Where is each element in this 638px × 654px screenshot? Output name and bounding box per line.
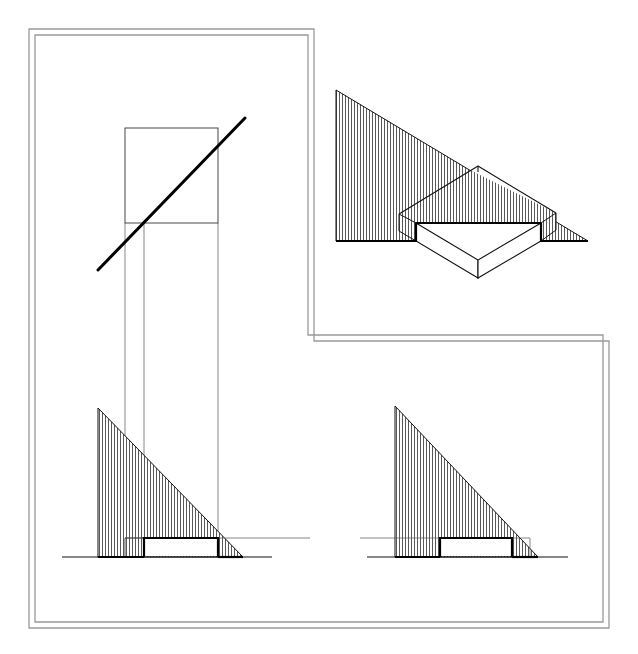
block-left-face [145, 539, 217, 556]
elevation-right [360, 406, 568, 557]
isometric-view [336, 90, 588, 278]
elevation-left [62, 408, 310, 557]
shadow-triangle-right [395, 406, 538, 557]
drawing-canvas [0, 0, 638, 654]
plan-square [125, 128, 218, 223]
light-ray [98, 118, 245, 270]
block-right-face [441, 539, 511, 556]
shadow-triangle-left [98, 408, 243, 557]
